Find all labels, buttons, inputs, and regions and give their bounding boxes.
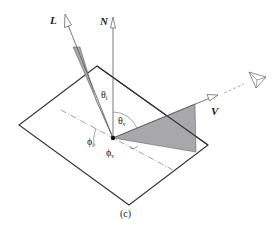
normal-label: N	[99, 15, 109, 27]
view-label: V	[211, 105, 220, 117]
figure-caption: (c)	[120, 208, 131, 220]
eye-icon	[249, 72, 266, 88]
reflection-geometry-diagram: N L V θi θv ϕi	[0, 0, 278, 233]
light-label: L	[49, 14, 57, 26]
origin-point	[111, 136, 115, 140]
